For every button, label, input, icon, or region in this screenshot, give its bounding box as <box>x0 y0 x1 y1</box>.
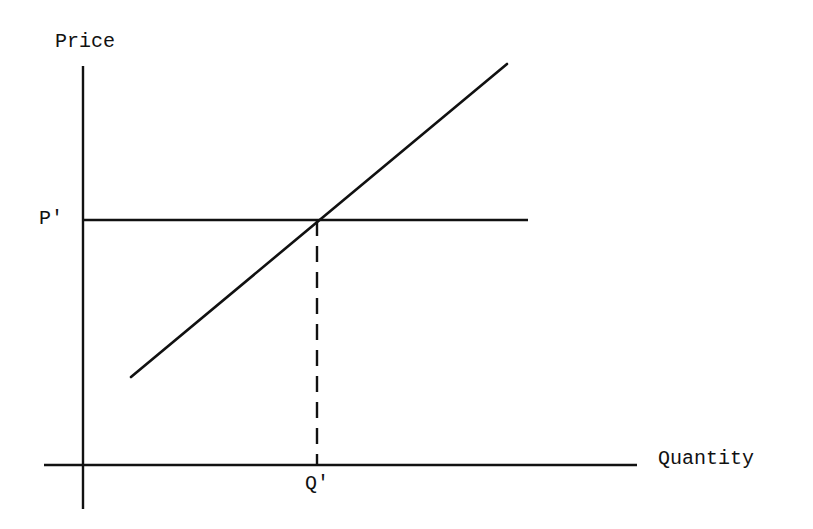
q-prime-label: Q' <box>305 474 329 494</box>
x-axis-label: Quantity <box>658 449 754 469</box>
y-axis-label: Price <box>55 32 115 52</box>
p-prime-label: P' <box>39 209 63 229</box>
